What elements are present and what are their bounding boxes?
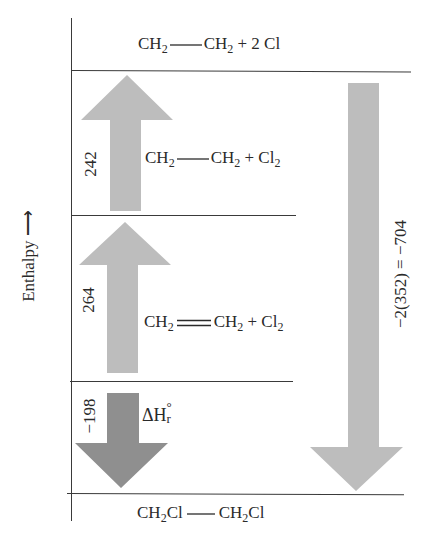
single-bond-icon xyxy=(183,510,219,518)
level-label-second: CH2CH2 + Cl2 xyxy=(145,148,280,168)
delta-h-r-label: ΔH°r xyxy=(142,405,167,426)
value-264: 264 xyxy=(79,285,99,315)
arrows-layer xyxy=(0,0,430,553)
arrow-down-704-icon xyxy=(310,83,403,491)
value-minus-704: −2(352) = −704 xyxy=(391,199,411,349)
enthalpy-label-text: Enthalpy xyxy=(19,240,38,301)
level-label-bottom: CH2ClCH2Cl xyxy=(137,503,264,523)
level-label-top: CH2CH2 + 2 Cl xyxy=(138,34,280,54)
value-242: 242 xyxy=(81,149,101,179)
value-minus-198: −198 xyxy=(80,396,100,436)
arrow-up-242-icon xyxy=(81,75,173,211)
enthalpy-axis-label: Enthalpy ⟶ xyxy=(17,196,39,316)
level-label-third: CH2CH2 + Cl2 xyxy=(144,312,283,332)
single-bond-icon xyxy=(168,41,204,49)
single-bond-icon xyxy=(175,155,211,163)
up-arrow-icon: ⟶ xyxy=(18,210,38,236)
double-bond-icon xyxy=(174,318,214,328)
